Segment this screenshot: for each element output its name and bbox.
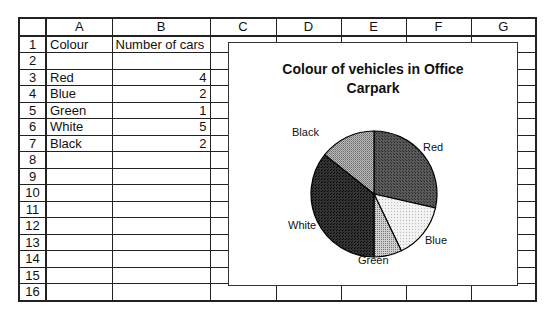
column-header-f[interactable]: F <box>406 18 471 36</box>
row-header[interactable]: 13 <box>19 234 46 251</box>
column-header-row: A B C D E F G <box>19 18 536 36</box>
cell-b[interactable] <box>112 234 210 251</box>
cell-b[interactable]: 2 <box>112 86 210 103</box>
cell-b[interactable]: 5 <box>112 119 210 136</box>
row-header[interactable]: 14 <box>19 251 46 268</box>
row-header[interactable]: 5 <box>19 102 46 119</box>
row-header[interactable]: 16 <box>19 284 46 301</box>
cell-a[interactable] <box>46 53 112 70</box>
pie-chart[interactable]: Colour of vehicles in Office Carpark Bla… <box>228 42 518 286</box>
select-all-corner[interactable] <box>19 18 46 36</box>
row-header[interactable]: 7 <box>19 135 46 152</box>
cell-b[interactable] <box>112 251 210 268</box>
slice-label-red: Red <box>423 141 443 153</box>
cell-b[interactable] <box>112 284 210 301</box>
cell-a[interactable] <box>46 284 112 301</box>
cell-a[interactable] <box>46 152 112 169</box>
cell-a[interactable] <box>46 201 112 218</box>
cell-a[interactable]: Black <box>46 135 112 152</box>
row-header[interactable]: 3 <box>19 69 46 86</box>
cell-b[interactable] <box>112 267 210 284</box>
cell-a[interactable] <box>46 218 112 235</box>
slice-label-green: Green <box>358 254 389 266</box>
row-header[interactable]: 6 <box>19 119 46 136</box>
cell-b[interactable]: 1 <box>112 102 210 119</box>
row-header[interactable]: 8 <box>19 152 46 169</box>
column-header-b[interactable]: B <box>112 18 210 36</box>
cell-a[interactable]: Red <box>46 69 112 86</box>
slice-label-black: Black <box>292 126 319 138</box>
cell-b[interactable] <box>112 152 210 169</box>
row-header[interactable]: 4 <box>19 86 46 103</box>
cell-a[interactable] <box>46 168 112 185</box>
cell-a[interactable] <box>46 251 112 268</box>
cell-b[interactable] <box>112 168 210 185</box>
cell-a[interactable]: White <box>46 119 112 136</box>
cell-a[interactable] <box>46 185 112 202</box>
cell-b[interactable]: Number of cars <box>112 36 210 53</box>
cell-b[interactable]: 2 <box>112 135 210 152</box>
cell-b[interactable] <box>112 218 210 235</box>
column-header-e[interactable]: E <box>341 18 406 36</box>
slice-label-blue: Blue <box>425 234 447 246</box>
column-header-a[interactable]: A <box>46 18 112 36</box>
cell-a[interactable]: Blue <box>46 86 112 103</box>
cell-a[interactable] <box>46 267 112 284</box>
row-header[interactable]: 12 <box>19 218 46 235</box>
cell-a[interactable]: Green <box>46 102 112 119</box>
row-header[interactable]: 2 <box>19 53 46 70</box>
row-header[interactable]: 1 <box>19 36 46 53</box>
row-header[interactable]: 11 <box>19 201 46 218</box>
cell-a[interactable] <box>46 234 112 251</box>
column-header-d[interactable]: D <box>276 18 341 36</box>
column-header-g[interactable]: G <box>471 18 536 36</box>
cell-b[interactable]: 4 <box>112 69 210 86</box>
row-header[interactable]: 10 <box>19 185 46 202</box>
pie-plot-area <box>229 43 519 287</box>
slice-label-white: White <box>288 219 316 231</box>
column-header-c[interactable]: C <box>210 18 276 36</box>
row-header[interactable]: 9 <box>19 168 46 185</box>
cell-b[interactable] <box>112 201 210 218</box>
cell-a[interactable]: Colour <box>46 36 112 53</box>
cell-b[interactable] <box>112 185 210 202</box>
row-header[interactable]: 15 <box>19 267 46 284</box>
cell-b[interactable] <box>112 53 210 70</box>
